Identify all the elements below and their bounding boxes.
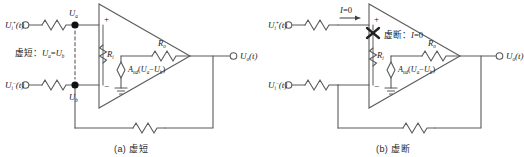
label-input-minus-b: Ui−(t) [268, 80, 287, 91]
label-ro-a: Ro [157, 38, 166, 49]
panel-virtual-break: Ui+(t) Ui−(t) Uo(t) I=0 Ri Ro Aud( [262, 0, 524, 157]
terminal-output-a [230, 53, 237, 60]
caption-b: (b) 虚断 [262, 142, 524, 155]
label-pin-minus-a: − [104, 81, 109, 91]
caption-a-text: 虚短 [129, 144, 148, 154]
label-output-b: Uo(t) [506, 51, 524, 62]
node-dot-a [71, 21, 78, 28]
resistor-feedback-a [133, 123, 165, 133]
label-input-plus-a: Ui+(t) [5, 20, 24, 31]
label-pin-plus-b: + [374, 14, 379, 24]
terminal-output-b [496, 53, 503, 60]
label-pin-minus-b: − [374, 81, 379, 91]
resistor-in-plus-a [42, 20, 75, 30]
label-input-plus-b: Ui+(t) [268, 20, 287, 31]
label-ro-b: Ro [427, 38, 436, 49]
resistor-feedback-b [403, 123, 435, 133]
current-arrow-head-b [355, 16, 360, 21]
label-pin-plus-a: + [104, 14, 109, 24]
circuit-diagram-a: Ui+(t) Ui−(t) Uo(t) Ua Ub Ri [0, 0, 262, 157]
caption-a: (a) 虚短 [0, 142, 262, 155]
resistor-in-plus-b [305, 20, 338, 30]
label-node-b: Ub [69, 92, 78, 103]
label-input-minus-a: Ui−(t) [5, 80, 24, 91]
node-dot-b [71, 81, 78, 88]
panel-virtual-short: Ui+(t) Ui−(t) Uo(t) Ua Ub Ri [0, 0, 262, 157]
caption-b-text: 虚断 [391, 144, 410, 154]
label-ri-a: Ri [106, 49, 114, 60]
annotation-virtual-short: 虚短：Ua=Ub [15, 47, 65, 59]
label-ri-b: Ri [376, 50, 384, 61]
label-current-zero-b: I=0 [339, 5, 352, 15]
circuit-diagram-b: Ui+(t) Ui−(t) Uo(t) I=0 Ri Ro Aud( [262, 0, 524, 157]
label-node-a: Ua [69, 8, 78, 19]
resistor-in-minus-a [42, 80, 75, 90]
label-dependent-source-b: Aud(Ua−Ub) [397, 65, 435, 75]
dependent-source-diamond-b [387, 62, 395, 78]
figure-root: Ui+(t) Ui−(t) Uo(t) Ua Ub Ri [0, 0, 524, 157]
caption-b-label: (b) [376, 144, 388, 154]
label-output-a: Uo(t) [240, 51, 258, 62]
caption-a-label: (a) [114, 144, 126, 154]
label-dependent-source-a: Aud(Ua−Ub) [127, 65, 165, 75]
annotation-virtual-break: 虚断：I=0 [384, 29, 423, 40]
dependent-source-diamond-a [117, 62, 125, 78]
resistor-in-minus-b [305, 80, 338, 90]
